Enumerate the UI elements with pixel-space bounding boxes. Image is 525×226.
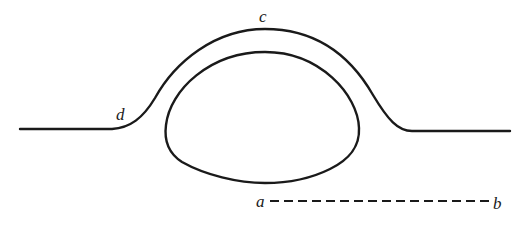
inner-loop-curve xyxy=(166,52,360,183)
label-b: b xyxy=(493,194,502,213)
label-d: d xyxy=(116,105,125,124)
diagram-canvas: c d a b xyxy=(0,0,525,226)
label-c: c xyxy=(259,7,267,26)
label-a: a xyxy=(256,192,265,211)
outer-surface-curve xyxy=(20,29,510,131)
diagram-svg: c d a b xyxy=(0,0,525,226)
